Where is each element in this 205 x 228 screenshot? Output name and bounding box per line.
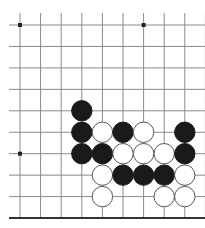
black-stone	[113, 122, 133, 142]
black-stone	[113, 165, 133, 185]
white-stone	[175, 165, 195, 185]
stones-layer	[72, 101, 195, 207]
black-stone	[72, 101, 92, 121]
black-stone	[92, 144, 112, 164]
black-stone	[72, 144, 92, 164]
white-stone	[92, 122, 112, 142]
black-stone	[133, 165, 153, 185]
black-stone	[175, 144, 195, 164]
white-stone	[175, 186, 195, 206]
black-stone	[175, 122, 195, 142]
white-stone	[133, 144, 153, 164]
black-stone	[154, 165, 174, 185]
white-stone	[92, 186, 112, 206]
black-stone	[72, 122, 92, 142]
white-stone	[92, 165, 112, 185]
go-board[interactable]	[0, 0, 205, 228]
white-stone	[154, 144, 174, 164]
star-point-icon	[18, 23, 22, 27]
star-point-icon	[142, 23, 146, 27]
white-stone	[133, 122, 153, 142]
star-point-icon	[18, 152, 22, 156]
white-stone	[113, 144, 133, 164]
white-stone	[154, 186, 174, 206]
